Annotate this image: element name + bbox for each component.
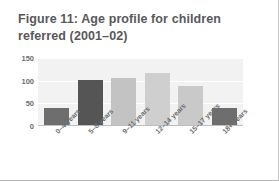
y-tick-label: 50 bbox=[0, 99, 34, 108]
x-slot: 0–4 years bbox=[40, 128, 74, 178]
x-slot: 9–11 years bbox=[107, 128, 141, 178]
y-axis: 050100150 bbox=[0, 58, 34, 126]
bar-chart: 050100150 0–4 years5–8 years9–11 years12… bbox=[0, 50, 279, 181]
x-slot: 5–8 years bbox=[74, 128, 108, 178]
x-slot: 15–17 years bbox=[174, 128, 208, 178]
figure-title: Figure 11: Age profile for children refe… bbox=[18, 11, 248, 44]
y-tick-label: 0 bbox=[0, 122, 34, 131]
x-slot: 12–14 years bbox=[141, 128, 175, 178]
x-axis: 0–4 years5–8 years9–11 years12–14 years1… bbox=[38, 128, 243, 178]
figure-card: Figure 11: Age profile for children refe… bbox=[0, 0, 279, 181]
x-slot: 18+ years bbox=[208, 128, 242, 178]
y-tick-label: 100 bbox=[0, 76, 34, 85]
y-tick-label: 150 bbox=[0, 54, 34, 63]
